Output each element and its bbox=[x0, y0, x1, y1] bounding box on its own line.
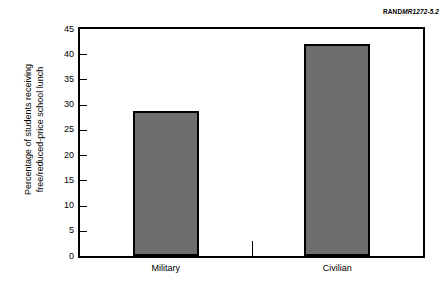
plot-area bbox=[78, 27, 425, 258]
rand-document-id: MR1272-5.2 bbox=[402, 8, 439, 15]
rand-credit: RANDMR1272-5.2 bbox=[383, 9, 439, 16]
y-axis-tick-label: 40 bbox=[48, 50, 74, 59]
y-axis-title: Percentage of students receiving free/re… bbox=[23, 15, 46, 245]
y-axis-tick-mark bbox=[80, 130, 87, 131]
rand-brand-label: RAND bbox=[383, 8, 402, 15]
y-axis-tick-mark bbox=[80, 105, 87, 106]
axis-separator-tick bbox=[252, 241, 253, 256]
y-axis-tick-mark bbox=[80, 180, 87, 181]
y-axis-tick-label: 15 bbox=[48, 176, 74, 185]
y-axis-title-wrapper: Percentage of students receiving free/re… bbox=[0, 0, 40, 289]
y-axis-tick-label: 20 bbox=[48, 151, 74, 160]
y-axis-tick-label: 0 bbox=[48, 252, 74, 261]
x-axis-label-civilian: Civilian bbox=[287, 263, 387, 273]
x-axis-label-military: Military bbox=[116, 263, 216, 273]
y-axis-tick-mark bbox=[80, 231, 87, 232]
y-axis-tick-mark bbox=[80, 79, 87, 80]
bar-civilian bbox=[304, 44, 370, 256]
y-axis-tick-mark bbox=[80, 206, 87, 207]
y-axis-tick-label: 30 bbox=[48, 100, 74, 109]
y-axis-title-line-1: Percentage of students receiving bbox=[23, 15, 35, 245]
y-axis-tick-label: 35 bbox=[48, 75, 74, 84]
y-axis-tick-label: 25 bbox=[48, 125, 74, 134]
y-axis-tick-labels: 051015202530354045 bbox=[44, 0, 74, 289]
y-axis-tick-label: 10 bbox=[48, 201, 74, 210]
figure-container: RANDMR1272-5.2 Percentage of students re… bbox=[0, 0, 447, 289]
y-axis-tick-mark bbox=[80, 155, 87, 156]
y-axis-tick-mark bbox=[80, 54, 87, 55]
bar-military bbox=[133, 111, 199, 256]
y-axis-tick-label: 5 bbox=[48, 226, 74, 235]
plot-inner bbox=[80, 29, 423, 256]
y-axis-tick-label: 45 bbox=[48, 25, 74, 34]
